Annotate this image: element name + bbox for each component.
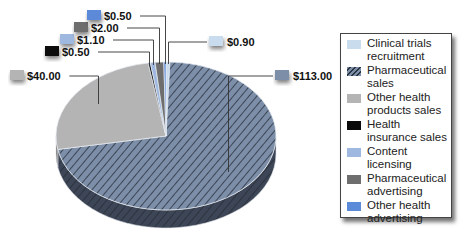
label-chip-pharmaceutical-advertising [74,22,88,32]
legend-swatch [347,202,361,211]
legend-item: Other health products sales [347,91,447,117]
label-chip-clinical-trials-recruitment [209,36,223,46]
legend-swatch [347,121,361,130]
label-chip-health-insurance-sales [45,46,59,56]
data-label-pharmaceutical-advertising: $2.00 [91,22,119,34]
legend-item: Pharmaceutical sales [347,64,447,90]
leader-line [113,40,154,65]
data-label-content-licensing: $1.10 [77,34,105,46]
pie-top [56,62,276,210]
legend-swatch [347,94,361,103]
legend-swatch [347,40,361,49]
leader-line [98,52,150,65]
legend-item: Other health advertising [347,199,447,225]
legend-label: Content licensing [367,145,447,171]
leader-line [127,28,160,64]
legend-item: Content licensing [347,145,447,171]
data-label-pharmaceutical-sales: $113.00 [293,70,332,82]
legend-item: Health insurance sales [347,118,447,144]
data-label-other-health-advertising: $0.50 [104,10,132,22]
legend-label: Clinical trials recruitment [367,37,447,63]
legend-label: Other health advertising [367,199,447,225]
data-label-health-insurance-sales: $0.50 [62,46,90,58]
leader-line [169,42,208,64]
legend-swatch [347,148,361,157]
label-chip-pharmaceutical-sales [275,70,289,80]
legend-label: Health insurance sales [367,118,447,144]
legend-swatch [347,67,361,76]
legend-label: Other health products sales [367,91,447,117]
legend-item: Pharmaceutical advertising [347,172,447,198]
legend-item: Clinical trials recruitment [347,37,447,63]
legend: Clinical trials recruitment Pharmaceutic… [340,33,452,218]
label-chip-content-licensing [60,34,74,44]
legend-label: Pharmaceutical advertising [367,172,447,198]
data-label-clinical-trials-recruitment: $0.90 [227,36,255,48]
label-chip-other-health-products-sales [10,70,24,80]
label-chip-other-health-advertising [87,10,101,20]
data-label-other-health-products-sales: $40.00 [27,70,61,82]
legend-label: Pharmaceutical sales [367,64,447,90]
legend-swatch [347,175,361,184]
